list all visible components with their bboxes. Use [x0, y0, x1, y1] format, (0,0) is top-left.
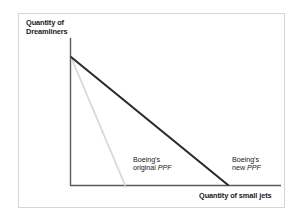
- figure-container: Quantity ofDreamliners Quantity of small…: [0, 0, 301, 221]
- x-axis-title: Quantity of small jets: [199, 192, 272, 201]
- original-ppf-label-line2-italic: PPF: [158, 163, 172, 172]
- original-ppf-label: Boeing'soriginal PPF: [133, 156, 172, 173]
- new-ppf-label: Boeing'snew PPF: [232, 156, 261, 173]
- y-axis-title: Quantity ofDreamliners: [26, 19, 68, 36]
- original-ppf-label-line2-plain: original: [133, 163, 158, 172]
- new-ppf-label-line2-plain: new: [232, 163, 247, 172]
- original-ppf-line: [71, 57, 125, 185]
- new-ppf-label-line2-italic: PPF: [247, 163, 261, 172]
- y-axis-title-line2: Dreamliners: [26, 27, 68, 36]
